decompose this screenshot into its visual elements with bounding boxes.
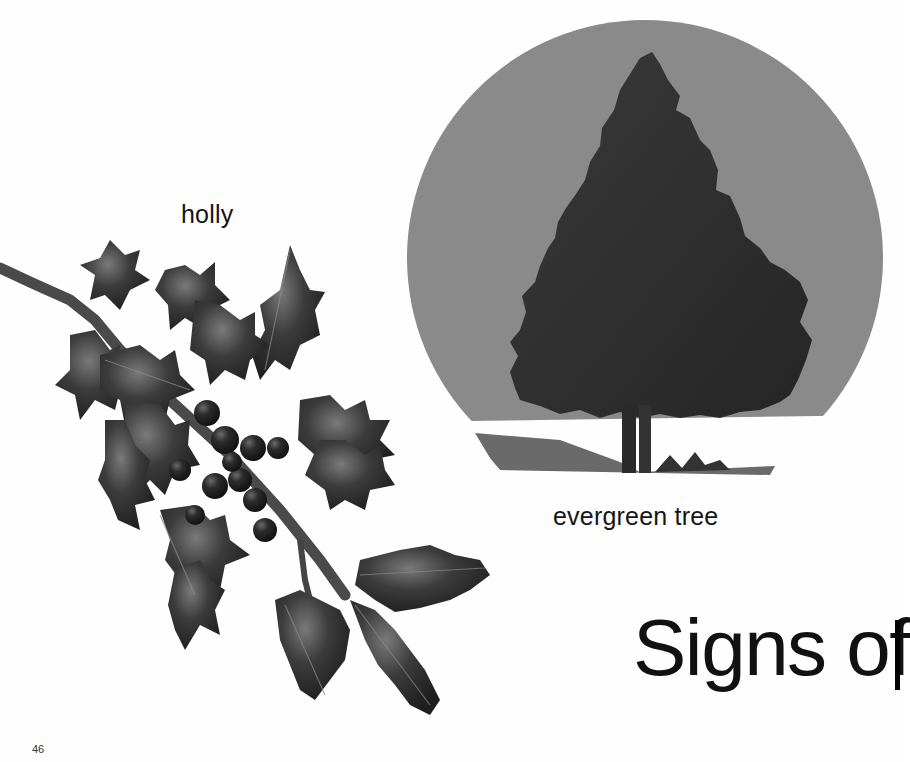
evergreen-tree-caption: evergreen tree <box>553 502 718 531</box>
page-number: 46 <box>32 743 44 755</box>
page-heading: Signs of <box>633 608 910 688</box>
tree-trunk <box>622 405 636 473</box>
next-page-edge <box>895 620 900 690</box>
evergreen-tree-illustration <box>400 15 890 500</box>
holly-caption: holly <box>181 200 233 229</box>
